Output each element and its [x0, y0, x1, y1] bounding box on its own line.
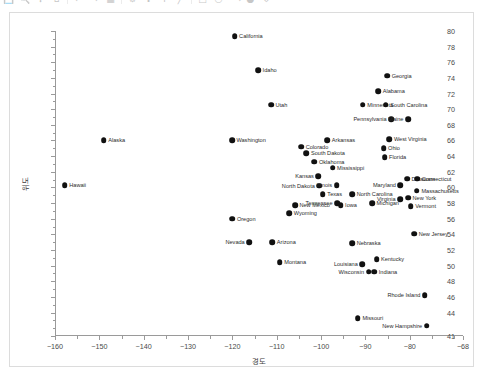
color-icon[interactable]: ● — [245, 0, 256, 5]
x-axis-line — [55, 335, 463, 336]
data-point[interactable] — [408, 203, 414, 209]
y-tick-label: 44 — [447, 308, 455, 317]
x-tick-minor — [388, 336, 389, 339]
data-point-label: Hawaii — [69, 182, 86, 188]
zoom-icon[interactable]: 🔍 — [19, 0, 30, 5]
y-tick-label: 72 — [447, 89, 455, 98]
data-point-label: New Hampshire — [382, 323, 422, 329]
data-point[interactable] — [232, 34, 238, 40]
pan-icon[interactable]: ✢ — [35, 0, 46, 5]
data-point[interactable] — [316, 174, 322, 180]
settings-icon[interactable]: ⚙ — [127, 0, 138, 5]
data-point-label: Vermont — [415, 203, 436, 209]
data-point[interactable] — [372, 269, 378, 275]
circle-icon[interactable]: ○ — [213, 0, 224, 5]
export-icon[interactable]: ⇩ — [261, 0, 272, 5]
x-tick — [99, 336, 100, 340]
y-tick-minor — [53, 211, 56, 212]
arrow-icon[interactable]: ⟶ — [229, 0, 240, 5]
data-point[interactable] — [424, 323, 430, 329]
y-tick-minor — [53, 133, 56, 134]
y-tick-label: 64 — [447, 152, 455, 161]
data-point[interactable] — [382, 154, 388, 160]
data-point[interactable] — [422, 293, 428, 299]
data-point[interactable] — [334, 200, 340, 206]
data-point[interactable] — [404, 176, 410, 182]
chart-toolbar[interactable]: 💾 🔍 ✢ ⌂ ← → ▦ ⚙ ✚ T ╱ □ ○ ⟶ ● ⇩ — [0, 0, 483, 9]
data-point[interactable] — [292, 203, 298, 209]
data-point[interactable] — [375, 88, 381, 94]
data-point[interactable] — [101, 138, 107, 144]
data-point[interactable] — [414, 188, 420, 194]
data-point-label: Utah — [275, 102, 287, 108]
x-tick — [144, 336, 145, 340]
data-point[interactable] — [384, 73, 390, 79]
data-point[interactable] — [268, 102, 274, 108]
home-icon[interactable]: ⌂ — [51, 0, 62, 5]
data-point[interactable] — [312, 159, 318, 165]
data-point[interactable] — [415, 176, 421, 182]
y-tick-label: 58 — [447, 199, 455, 208]
data-point[interactable] — [366, 269, 372, 275]
data-point[interactable] — [411, 231, 417, 237]
rect-icon[interactable]: □ — [197, 0, 208, 5]
text-icon[interactable]: T — [159, 0, 170, 5]
save-icon[interactable]: 💾 — [3, 0, 14, 5]
data-point[interactable] — [349, 240, 355, 246]
data-point[interactable] — [320, 192, 326, 198]
data-point[interactable] — [62, 182, 68, 188]
forward-icon[interactable]: → — [89, 0, 100, 5]
data-point[interactable] — [369, 200, 375, 206]
data-point[interactable] — [381, 146, 387, 152]
data-point[interactable] — [334, 182, 340, 188]
scatter-plot[interactable]: 4144464850525456586062646668707274767880… — [55, 31, 463, 336]
data-point-label: Mississippi — [337, 165, 364, 171]
toolbar-icon-group[interactable]: 💾 🔍 ✢ ⌂ ← → ▦ ⚙ ✚ T ╱ □ ○ ⟶ ● ⇩ — [3, 0, 272, 5]
y-tick — [51, 156, 55, 157]
data-point-label: Oregon — [237, 216, 256, 222]
data-point[interactable] — [405, 117, 411, 123]
data-point[interactable] — [270, 239, 276, 245]
data-point[interactable] — [330, 165, 336, 171]
data-point[interactable] — [360, 102, 366, 108]
data-point[interactable] — [255, 67, 261, 73]
data-point[interactable] — [360, 261, 366, 267]
data-point[interactable] — [349, 192, 355, 198]
data-point[interactable] — [298, 144, 304, 150]
data-point-label: Kentucky — [381, 256, 404, 262]
data-point-label: Alaska — [108, 137, 125, 143]
data-point[interactable] — [387, 136, 393, 142]
data-point-label: Pennsylvania — [353, 116, 386, 122]
data-point-label: Arkansas — [332, 137, 355, 143]
data-point[interactable] — [286, 210, 292, 216]
data-point-label: Maryland — [373, 182, 396, 188]
data-point-label: Kansas — [295, 173, 314, 179]
data-point[interactable] — [398, 182, 404, 188]
data-point[interactable] — [246, 239, 252, 245]
data-point-label: New York — [413, 195, 437, 201]
grid-icon[interactable]: ▦ — [105, 0, 116, 5]
back-icon[interactable]: ← — [73, 0, 84, 5]
data-point[interactable] — [405, 195, 411, 201]
data-point[interactable] — [374, 257, 380, 263]
x-tick-label: −160 — [47, 342, 63, 351]
y-tick-minor — [53, 39, 56, 40]
y-tick — [51, 297, 55, 298]
data-point[interactable] — [277, 260, 283, 266]
data-point[interactable] — [230, 216, 236, 222]
data-point-label: Illinois — [317, 182, 333, 188]
y-tick-minor — [53, 54, 56, 55]
data-point[interactable] — [229, 138, 235, 144]
y-tick — [51, 31, 55, 32]
data-point[interactable] — [355, 315, 361, 321]
crosshair-icon[interactable]: ✚ — [143, 0, 154, 5]
x-tick — [277, 336, 278, 340]
data-point[interactable] — [324, 138, 330, 144]
data-point-label: Missouri — [362, 315, 383, 321]
data-point-label: Texas — [327, 191, 342, 197]
y-tick-minor — [53, 320, 56, 321]
data-point[interactable] — [383, 102, 389, 108]
y-tick-label: 50 — [447, 261, 455, 270]
line-icon[interactable]: ╱ — [175, 0, 186, 5]
data-point[interactable] — [304, 150, 310, 156]
